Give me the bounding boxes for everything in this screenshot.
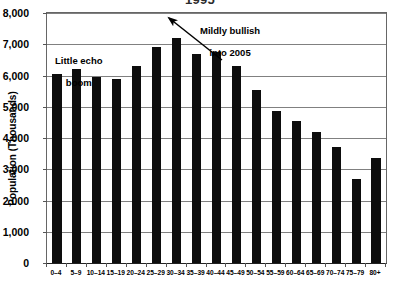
bar [192, 54, 201, 263]
x-axis-tick-mark [305, 263, 306, 267]
y-axis-tick-label: 5,000 [0, 102, 29, 112]
y-axis-tick-label: 1,000 [0, 227, 29, 237]
bar [312, 132, 321, 263]
x-axis-tick-mark [225, 263, 226, 267]
x-axis-tick-mark [106, 263, 107, 267]
bar [52, 74, 61, 263]
x-axis-tick-label: 40–44 [206, 269, 226, 277]
x-axis-tick-label: 80+ [365, 269, 385, 277]
x-axis-tick-mark [186, 263, 187, 267]
x-axis-tick-label: 15–19 [106, 269, 126, 277]
x-axis-tick-label: 20–24 [126, 269, 146, 277]
y-axis-tick-label: 2,000 [0, 196, 29, 206]
x-axis-tick-label: 55–59 [265, 269, 285, 277]
bar [332, 147, 341, 263]
y-axis-tick-label: 4,000 [0, 133, 29, 143]
bar [352, 179, 361, 263]
x-axis-tick-label: 0–4 [46, 269, 66, 277]
x-axis-tick-mark [46, 263, 47, 267]
x-axis-tick-mark [206, 263, 207, 267]
x-axis-tick-label: 35–39 [186, 269, 206, 277]
x-axis-tick-mark [265, 263, 266, 267]
x-axis-tick-label: 5–9 [66, 269, 86, 277]
bar [272, 111, 281, 263]
bar [212, 52, 221, 263]
x-axis-tick-label: 25–29 [146, 269, 166, 277]
bar [371, 158, 380, 263]
bar [252, 90, 261, 263]
y-axis-tick-label: 8,000 [0, 8, 29, 18]
x-axis-tick-label: 70–74 [325, 269, 345, 277]
x-axis-tick-mark [365, 263, 366, 267]
x-axis-tick-label: 75–79 [345, 269, 365, 277]
annotation-mildly-bullish: Mildly bullish into 2005 [200, 14, 260, 69]
y-axis-tick-label: 7,000 [0, 39, 29, 49]
bar [172, 38, 181, 263]
x-axis-tick-mark [385, 263, 386, 267]
bar [112, 79, 121, 263]
x-axis-tick-mark [146, 263, 147, 267]
y-axis-tick-label: 3,000 [0, 164, 29, 174]
population-bar-chart: 1995 Population (Thousands) 8,0007,0006,… [0, 0, 400, 285]
chart-title: 1995 [0, 0, 400, 6]
x-axis-tick-label: 10–14 [86, 269, 106, 277]
annotation-mildly-bullish-line1: Mildly bullish [200, 25, 260, 36]
bar [232, 66, 241, 263]
x-axis-tick-mark [66, 263, 67, 267]
annotation-little-echo-boom-line1: Little echo [55, 55, 103, 66]
bar [292, 121, 301, 263]
x-axis-tick-label: 50–54 [245, 269, 265, 277]
y-axis-tick-label: 0 [0, 258, 29, 268]
bar [132, 66, 141, 263]
x-axis-tick-mark [345, 263, 346, 267]
bar [152, 47, 161, 263]
x-axis-tick-mark [285, 263, 286, 267]
x-axis-tick-label: 60–64 [285, 269, 305, 277]
annotation-little-echo-boom-line2: boom [55, 77, 103, 88]
x-axis-tick-label: 30–34 [166, 269, 186, 277]
annotation-mildly-bullish-line2: into 2005 [200, 47, 260, 58]
x-axis-tick-label: 45–49 [225, 269, 245, 277]
y-axis-tick-label: 6,000 [0, 71, 29, 81]
bar [92, 77, 101, 263]
x-axis-tick-mark [245, 263, 246, 267]
annotation-little-echo-boom: Little echo boom [55, 44, 103, 99]
x-axis-tick-mark [126, 263, 127, 267]
x-axis-tick-mark [86, 263, 87, 267]
x-axis-tick-mark [166, 263, 167, 267]
x-axis-tick-label: 65–69 [305, 269, 325, 277]
x-axis-tick-mark [325, 263, 326, 267]
